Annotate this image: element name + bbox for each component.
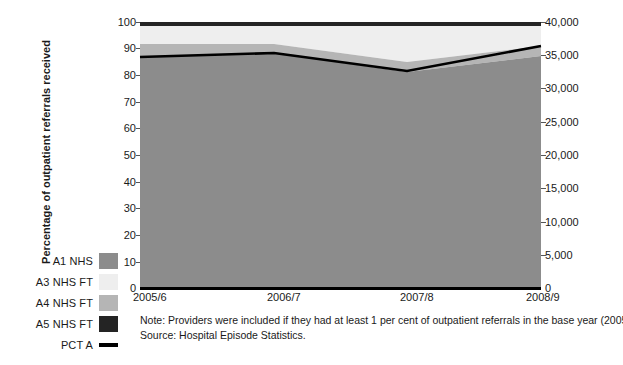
x-tick-2008-9: 2008/9: [526, 292, 560, 303]
chart-plot-area: Percentage of outpatient referrals recei…: [0, 0, 623, 365]
stacked-area-chart: [0, 0, 623, 365]
x-tick-2006-7: 2006/7: [267, 292, 301, 303]
chart-source: Source: Hospital Episode Statistics.: [140, 328, 610, 343]
x-tick-2005-6: 2005/6: [133, 292, 167, 303]
chart-notes: Note: Providers were included if they ha…: [140, 313, 610, 343]
chart-note: Note: Providers were included if they ha…: [140, 313, 610, 328]
x-tick-2007-8: 2007/8: [400, 292, 434, 303]
area-a5-nhs-ft: [140, 22, 541, 26]
area-a1-nhs: [140, 53, 541, 288]
